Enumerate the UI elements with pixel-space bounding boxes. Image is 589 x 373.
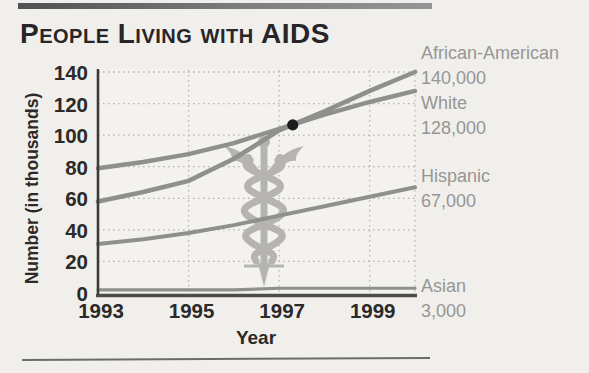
legend-asian: Asian 3,000 bbox=[421, 274, 589, 323]
y-tick-label: 20 bbox=[18, 250, 88, 274]
legend-label: White bbox=[421, 91, 589, 116]
x-tick-label: 1995 bbox=[160, 299, 224, 323]
x-tick-label: 1993 bbox=[69, 299, 133, 323]
legend-label: Hispanic bbox=[421, 164, 589, 189]
y-tick-label: 120 bbox=[18, 93, 88, 117]
legend-value: 3,000 bbox=[421, 299, 589, 324]
legend-label: African-American bbox=[421, 41, 589, 66]
legend-white: White 128,000 bbox=[421, 91, 589, 140]
x-axis-title: Year bbox=[196, 327, 316, 349]
legend-value: 67,000 bbox=[421, 189, 589, 214]
x-tick-label: 1997 bbox=[250, 299, 314, 323]
legend-hispanic: Hispanic 67,000 bbox=[421, 164, 589, 213]
legend-african-american: African-American 140,000 bbox=[421, 41, 589, 90]
legend-value: 140,000 bbox=[421, 66, 589, 91]
aids-chart-figure: People Living with AIDS Number (in thous… bbox=[0, 0, 589, 373]
x-tick-label: 1999 bbox=[341, 299, 405, 323]
y-tick-label: 60 bbox=[18, 187, 88, 211]
y-tick-label: 80 bbox=[18, 156, 88, 180]
y-tick-label: 140 bbox=[18, 61, 88, 85]
y-tick-label: 40 bbox=[18, 219, 88, 243]
legend-value: 128,000 bbox=[421, 116, 589, 141]
y-tick-label: 100 bbox=[18, 124, 88, 148]
legend-label: Asian bbox=[421, 274, 589, 299]
